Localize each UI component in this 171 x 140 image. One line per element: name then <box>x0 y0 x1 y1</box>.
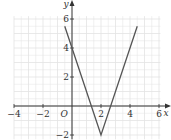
x-tick-label: 6 <box>156 109 162 119</box>
y-tick-label: 6 <box>63 14 69 24</box>
y-tick-label: 4 <box>63 43 69 53</box>
y-axis-arrow-icon <box>70 0 75 6</box>
y-axis-label: y <box>62 0 69 9</box>
origin-label: O <box>61 109 69 119</box>
x-tick-label: 2 <box>98 109 104 119</box>
x-tick-label: −4 <box>7 109 21 119</box>
y-tick-label: −2 <box>56 130 69 140</box>
x-tick-label: −2 <box>36 109 49 119</box>
x-tick-label: 4 <box>127 109 133 119</box>
y-tick-label: 2 <box>63 72 69 82</box>
x-axis-label: x <box>163 108 168 118</box>
grid-lines <box>14 16 160 139</box>
chart: −4−2246−2246Oxy <box>0 0 171 140</box>
